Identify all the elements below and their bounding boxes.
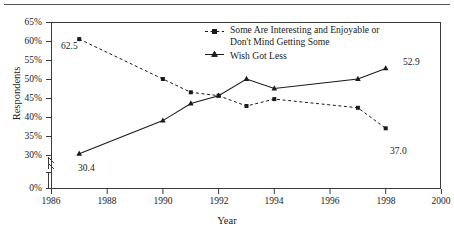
y-tick-label-30: 30% xyxy=(12,150,42,160)
legend-label-some-are-interesting: Some Are Interesting and Enjoyable or Do… xyxy=(230,24,436,47)
series-markers-triangle xyxy=(76,65,388,156)
x-tick-label-1994: 1994 xyxy=(254,196,294,206)
series-line-solid xyxy=(79,68,386,153)
y-axis-break-marker xyxy=(46,157,54,189)
x-tick-label-1988: 1988 xyxy=(87,196,127,206)
x-axis-ticks xyxy=(52,189,442,194)
dashed-square-line-icon xyxy=(203,27,225,34)
data-label-37-0: 37.0 xyxy=(390,146,407,156)
chart-figure: 65% 60% 55% 50% 45% 40% 35% 30% 0% 1986 … xyxy=(0,0,454,234)
data-label-62-5: 62.5 xyxy=(61,41,78,51)
x-tick-label-2000: 2000 xyxy=(421,196,454,206)
y-tick-label-0: 0% xyxy=(12,183,42,193)
legend-entry-some-are-interesting: Some Are Interesting and Enjoyable or Do… xyxy=(203,24,436,47)
legend-entry-wish-got-less: Wish Got Less xyxy=(203,50,436,62)
solid-triangle-line-icon xyxy=(203,53,225,60)
x-tick-label-1998: 1998 xyxy=(366,196,406,206)
chart-legend: Some Are Interesting and Enjoyable or Do… xyxy=(203,24,436,62)
data-label-30-4: 30.4 xyxy=(78,163,95,173)
x-tick-label-1986: 1986 xyxy=(31,196,71,206)
y-axis-title: Respondents xyxy=(11,54,22,134)
series-wish-got-less xyxy=(76,65,388,156)
legend-label-wish-got-less: Wish Got Less xyxy=(230,50,436,62)
y-tick-label-65: 65% xyxy=(12,17,42,27)
y-tick-label-60: 60% xyxy=(12,36,42,46)
x-axis-title: Year xyxy=(187,215,267,226)
x-tick-label-1990: 1990 xyxy=(143,196,183,206)
x-tick-label-1996: 1996 xyxy=(310,196,350,206)
x-tick-label-1992: 1992 xyxy=(199,196,239,206)
